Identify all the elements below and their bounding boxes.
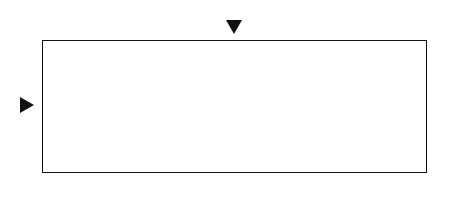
knitting-chart-grid [42, 40, 427, 173]
row-marker-arrow-icon [20, 97, 34, 113]
column-marker-arrow-icon [226, 20, 242, 34]
